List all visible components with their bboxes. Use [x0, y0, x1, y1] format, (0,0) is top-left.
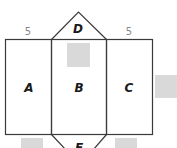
label-a: A	[23, 81, 33, 95]
prism-net-diagram: 5 5 D A B C E	[0, 0, 177, 148]
answer-box-bottom-right	[115, 138, 137, 148]
answer-box-bottom-left	[21, 138, 43, 148]
answer-box-right	[155, 75, 177, 98]
answer-box-top	[67, 43, 90, 67]
label-e: E	[75, 141, 84, 148]
label-d: D	[73, 22, 83, 36]
label-b: B	[74, 81, 83, 95]
label-c: C	[125, 81, 134, 95]
dimension-label-left: 5	[25, 26, 31, 37]
dimension-label-right: 5	[126, 26, 132, 37]
